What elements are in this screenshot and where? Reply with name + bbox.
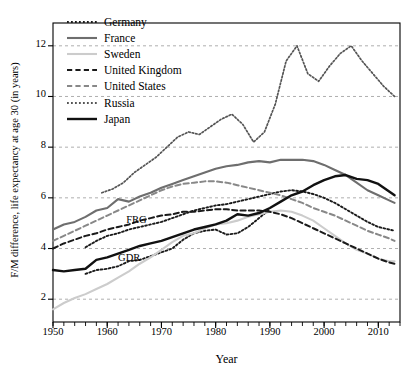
x-tick-label: 1970 bbox=[141, 326, 181, 337]
x-tick-label: 2000 bbox=[304, 326, 344, 337]
x-tick-label: 1990 bbox=[250, 326, 290, 337]
legend-item: Japan bbox=[66, 111, 182, 127]
series-line-france bbox=[53, 160, 395, 230]
legend-swatch-germany bbox=[66, 15, 98, 29]
legend-item: Sweden bbox=[66, 46, 182, 62]
y-tick-label: 6 bbox=[20, 190, 46, 201]
y-tick-label: 12 bbox=[20, 38, 46, 49]
legend-swatch-united-kingdom bbox=[66, 63, 98, 77]
legend-item: Russia bbox=[66, 94, 182, 110]
legend-swatch-sweden bbox=[66, 47, 98, 61]
legend-label: Sweden bbox=[104, 48, 140, 60]
y-tick-label: 8 bbox=[20, 139, 46, 150]
legend-swatch-russia bbox=[66, 96, 98, 110]
x-tick-label: 1960 bbox=[87, 326, 127, 337]
y-tick-label: 10 bbox=[20, 88, 46, 99]
legend-label: United States bbox=[104, 80, 166, 92]
legend: GermanyFranceSwedenUnited KingdomUnited … bbox=[66, 14, 182, 127]
x-axis-title: Year bbox=[53, 352, 400, 367]
y-tick-label: 4 bbox=[20, 241, 46, 252]
legend-swatch-united-states bbox=[66, 79, 98, 93]
plot-area bbox=[0, 0, 412, 381]
x-tick-label: 2010 bbox=[358, 326, 398, 337]
chart-figure: F/M difference, life expectancy at age 3… bbox=[0, 0, 412, 381]
legend-item: United States bbox=[66, 78, 182, 94]
x-tick-label: 1980 bbox=[196, 326, 236, 337]
legend-swatch-japan bbox=[66, 112, 98, 126]
legend-label: France bbox=[104, 32, 135, 44]
y-tick-label: 2 bbox=[20, 291, 46, 302]
legend-item: France bbox=[66, 30, 182, 46]
legend-label: Russia bbox=[104, 97, 135, 109]
legend-swatch-france bbox=[66, 31, 98, 45]
legend-item: United Kingdom bbox=[66, 62, 182, 78]
series-line-sweden bbox=[53, 211, 395, 310]
legend-label: Japan bbox=[104, 113, 130, 125]
annotation-gdr: GDR bbox=[118, 252, 140, 263]
legend-item: Germany bbox=[66, 14, 182, 30]
annotation-frg: FRG bbox=[126, 214, 146, 225]
x-tick-label: 1950 bbox=[33, 326, 73, 337]
legend-label: Germany bbox=[104, 16, 147, 28]
legend-label: United Kingdom bbox=[104, 64, 182, 76]
series-line-united-states bbox=[53, 181, 395, 241]
